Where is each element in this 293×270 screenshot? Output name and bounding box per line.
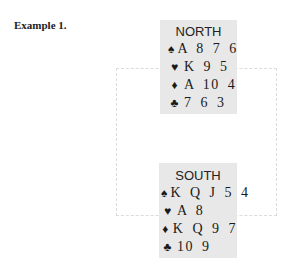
south-hand: SOUTH ♠ K Q J 5 4 ♥ A 8 ♦ K Q 9 7 ♣ 10 9: [159, 163, 237, 258]
north-hearts-cards: K 9 5: [184, 59, 229, 75]
seat-label-south: SOUTH: [159, 167, 237, 184]
south-diamonds-row: ♦ K Q 9 7: [159, 220, 237, 238]
spade-icon: ♠: [168, 42, 174, 57]
north-clubs-cards: 7 6 3: [184, 95, 226, 111]
spade-icon: ♠: [161, 186, 167, 201]
south-diamonds-cards: K Q 9 7: [173, 221, 237, 237]
north-diamonds-row: ♦ A 10 4: [160, 76, 237, 94]
north-spades-cards: A 8 7 6: [177, 41, 237, 57]
north-hand: NORTH ♠ A 8 7 6 ♥ K 9 5 ♦ A 10 4 ♣ 7 6 3: [160, 20, 237, 114]
heart-icon: ♥: [168, 60, 181, 75]
north-diamonds-cards: A 10 4: [184, 77, 236, 93]
south-clubs-cards: 10 9: [177, 239, 211, 255]
heart-icon: ♥: [161, 204, 174, 219]
seat-label-north: NORTH: [160, 23, 237, 40]
diamond-icon: ♦: [161, 222, 170, 237]
club-icon: ♣: [161, 240, 174, 255]
north-clubs-row: ♣ 7 6 3: [160, 94, 237, 112]
south-spades-cards: K Q J 5 4: [170, 185, 249, 201]
south-spades-row: ♠ K Q J 5 4: [159, 184, 237, 202]
south-clubs-row: ♣ 10 9: [159, 238, 237, 256]
south-hearts-row: ♥ A 8: [159, 202, 237, 220]
club-icon: ♣: [168, 96, 181, 111]
example-title: Example 1.: [14, 19, 67, 31]
north-hearts-row: ♥ K 9 5: [160, 58, 237, 76]
south-hearts-cards: A 8: [177, 203, 204, 219]
diamond-icon: ♦: [168, 78, 181, 93]
north-spades-row: ♠ A 8 7 6: [160, 40, 237, 58]
